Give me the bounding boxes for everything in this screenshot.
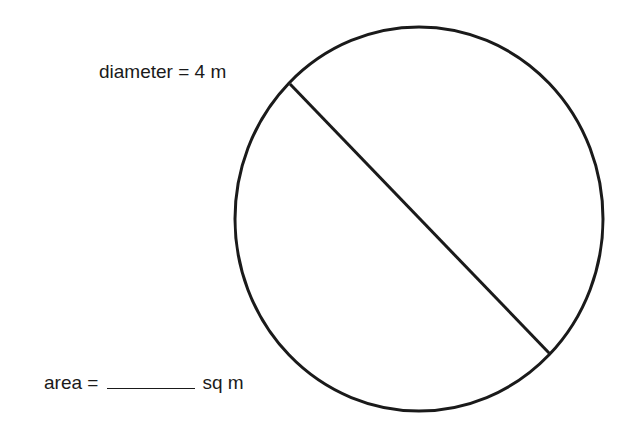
area-answer-blank[interactable] (107, 374, 195, 389)
diameter-label: diameter = 4 m (99, 62, 226, 81)
area-unit: sq m (202, 373, 243, 392)
circle-diagram (0, 0, 633, 434)
area-label: area = (44, 373, 98, 392)
diameter-line (290, 84, 550, 354)
area-answer-line: area = sq m (44, 373, 244, 392)
